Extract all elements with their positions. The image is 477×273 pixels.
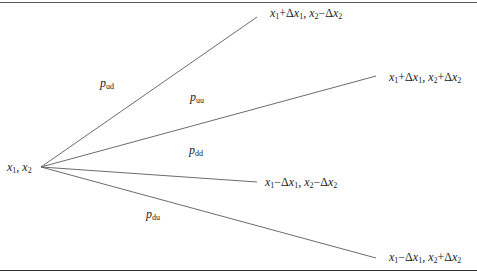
op: +Δ xyxy=(437,70,451,84)
branch-line-ud xyxy=(41,17,257,167)
branch-lines xyxy=(0,0,477,273)
prob-sub: dd xyxy=(195,149,203,158)
sub: 2 xyxy=(333,181,337,190)
probability-du: pdu xyxy=(146,207,160,225)
op: +Δ xyxy=(437,250,451,264)
prob-sub: ud xyxy=(106,82,114,91)
op: −Δ xyxy=(398,250,412,264)
op: −Δ xyxy=(313,175,327,189)
root-node-label: x1, x2 xyxy=(7,160,32,178)
node-label-ud: x1+Δx1, x2−Δx2 xyxy=(270,6,342,24)
diagram-frame: x1, x2 pud puu pdd pdu x1+Δx1, x2−Δx2 x1… xyxy=(0,0,477,273)
op: −Δ xyxy=(274,175,288,189)
op: +Δ xyxy=(398,70,412,84)
prob-sub: uu xyxy=(196,96,204,105)
sub: 2 xyxy=(457,256,461,265)
branch-line-uu xyxy=(41,76,376,167)
op: −Δ xyxy=(318,6,332,20)
sub: 2 xyxy=(338,12,342,21)
probability-uu: puu xyxy=(190,90,204,108)
probability-ud: pud xyxy=(100,76,114,94)
op: +Δ xyxy=(279,6,293,20)
probability-dd: pdd xyxy=(189,143,203,161)
sub: 2 xyxy=(457,76,461,85)
node-label-uu: x1+Δx1, x2+Δx2 xyxy=(389,70,461,88)
root-x2-sub: 2 xyxy=(28,166,32,175)
prob-sub: du xyxy=(152,213,160,222)
node-label-du: x1−Δx1, x2+Δx2 xyxy=(389,250,461,268)
node-label-dd: x1−Δx1, x2−Δx2 xyxy=(265,175,337,193)
branch-line-dd xyxy=(41,167,257,182)
